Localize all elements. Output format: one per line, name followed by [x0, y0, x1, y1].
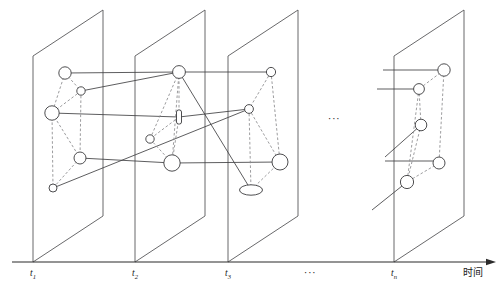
graph-node-tn-n3[interactable] [415, 119, 427, 131]
inter-plane-edges-layer [52, 72, 280, 190]
nodes-layer [45, 64, 450, 195]
graph-node-tn-n1[interactable] [438, 64, 450, 76]
time-axis-layer [12, 259, 496, 266]
graph-node-t1-n3[interactable] [45, 106, 59, 120]
arrow-right-icon [486, 259, 496, 266]
intra-edge-tn-n3-tn-n5 [407, 125, 421, 182]
inter-edge-t1-n1-t2-n1 [65, 72, 179, 73]
graph-node-t3-n4[interactable] [240, 185, 263, 195]
intra-edge-t1-n2-t1-n4 [80, 91, 81, 158]
time-slice-plane-t1 [33, 10, 103, 262]
inter-edge-t1-n5-t3-n2 [53, 109, 249, 188]
truncated-edge-trunc-tn-4 [385, 125, 421, 157]
graph-node-t2-n2[interactable] [177, 110, 182, 124]
intra-edge-t3-n1-t3-n2 [249, 72, 271, 109]
truncated-edges-layer [372, 70, 444, 210]
intra-edge-t3-n2-t3-n3 [249, 109, 280, 162]
graph-node-tn-n5[interactable] [400, 175, 413, 188]
axis-tick-label-t3: t3 [225, 268, 232, 280]
graph-node-t1-n5[interactable] [49, 184, 57, 192]
time-slice-plane-t3 [228, 10, 298, 262]
inter-edge-t2-n1-t3-n4 [179, 72, 251, 190]
axis-tick-label-tn: tn [391, 268, 398, 280]
labels-layer: t1t2t3tn······时间 [30, 112, 483, 280]
graph-node-t2-n1[interactable] [173, 66, 186, 79]
temporal-network-figure: t1t2t3tn······时间 [0, 0, 503, 290]
axis-tick-label-t2: t2 [132, 268, 139, 280]
time-axis-caption: 时间 [463, 266, 483, 278]
inter-edge-t2-n4-t3-n3 [172, 162, 280, 163]
graph-node-t3-n3[interactable] [272, 154, 288, 170]
axis-tick-label-t1: t1 [30, 268, 36, 280]
planes-layer [33, 10, 464, 262]
graph-node-t1-n1[interactable] [59, 67, 71, 79]
intra-edge-t3-n1-t3-n3 [271, 72, 280, 162]
inter-edge-t1-n2-t2-n1 [81, 72, 179, 91]
intra-edge-tn-n1-tn-n4 [439, 70, 444, 163]
time-slice-plane-t2 [135, 10, 205, 262]
intra-edge-t3-n2-t3-n4 [249, 109, 251, 190]
graph-node-t1-n4[interactable] [74, 152, 86, 164]
diagram-canvas: t1t2t3tn······时间 [0, 0, 503, 290]
graph-node-t1-n2[interactable] [77, 87, 85, 95]
graph-node-t3-n1[interactable] [266, 67, 275, 76]
middle-ellipsis: ··· [328, 112, 341, 124]
intra-edge-t1-n3-t1-n5 [52, 113, 53, 188]
graph-node-t2-n4[interactable] [164, 155, 180, 171]
graph-node-tn-n2[interactable] [414, 84, 425, 95]
graph-node-t2-n3[interactable] [146, 135, 154, 143]
graph-node-t3-n2[interactable] [245, 105, 254, 114]
intra-plane-edges-layer [52, 70, 444, 190]
intra-edge-t1-n3-t1-n4 [52, 113, 80, 158]
graph-node-tn-n4[interactable] [433, 157, 445, 169]
axis-gap-ellipsis: ··· [304, 266, 317, 278]
time-slice-plane-tn [394, 10, 464, 262]
